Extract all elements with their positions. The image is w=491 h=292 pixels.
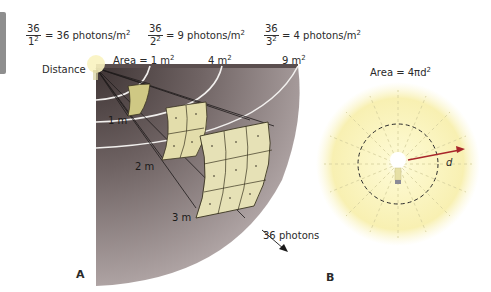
area-label-1m: Area = 1 m2	[113, 55, 175, 66]
distance-mark-2m: 2 m	[135, 161, 154, 172]
arrow-head-icon	[279, 244, 288, 252]
distance-mark-1m: 1 m	[108, 115, 127, 126]
area-formula: Area = 4πd2	[370, 67, 431, 78]
area-label-9m: 9 m2	[282, 55, 306, 66]
area-label-4m: 4 m2	[208, 55, 232, 66]
photons-label: 36 photons	[263, 230, 319, 241]
light-bulb-b-icon	[395, 168, 401, 180]
panel-label-b: B	[326, 271, 334, 284]
distance-label: Distance	[42, 64, 86, 75]
radius-label: d	[446, 157, 452, 168]
inverse-square-cone-diagram	[0, 0, 491, 292]
panel-label-a: A	[76, 268, 85, 281]
distance-mark-3m: 3 m	[172, 212, 191, 223]
